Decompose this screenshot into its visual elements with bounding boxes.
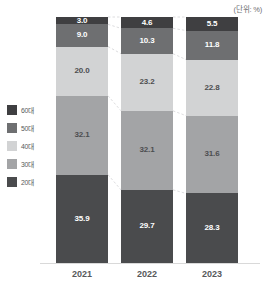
bar-segment-60대[interactable]: 5.5 bbox=[186, 17, 238, 31]
bar-segment-40대[interactable]: 20.0 bbox=[56, 47, 108, 96]
segment-value-label: 29.7 bbox=[140, 222, 155, 230]
bar-group-2021: 3.09.020.032.135.9 bbox=[56, 17, 108, 263]
bar-segment-50대[interactable]: 9.0 bbox=[56, 24, 108, 46]
x-axis-line bbox=[40, 263, 260, 264]
bar-segment-60대[interactable]: 3.0 bbox=[56, 17, 108, 24]
bar-segment-50대[interactable]: 11.8 bbox=[186, 31, 238, 60]
bar-segment-20대[interactable]: 35.9 bbox=[56, 175, 108, 263]
plot-area: 3.09.020.032.135.920214.610.323.232.129.… bbox=[0, 0, 268, 285]
stacked-bar-chart: (단위: %) 60대50대40대30대20대 3.09.020.032.135… bbox=[0, 0, 268, 285]
stacked-bar: 4.610.323.232.129.7 bbox=[121, 17, 173, 263]
segment-value-label: 10.3 bbox=[140, 37, 155, 45]
bar-segment-20대[interactable]: 28.3 bbox=[186, 193, 238, 263]
bar-segment-40대[interactable]: 23.2 bbox=[121, 54, 173, 111]
segment-value-label: 32.1 bbox=[75, 131, 90, 139]
segment-value-label: 4.6 bbox=[142, 19, 153, 27]
segment-value-label: 9.0 bbox=[77, 31, 88, 39]
x-axis-label-2022: 2022 bbox=[121, 269, 173, 279]
bar-segment-60대[interactable]: 4.6 bbox=[121, 17, 173, 28]
segment-value-label: 32.1 bbox=[140, 146, 155, 154]
segment-value-label: 28.3 bbox=[205, 224, 220, 232]
stacked-bar: 3.09.020.032.135.9 bbox=[56, 17, 108, 263]
bar-group-2023: 5.511.822.831.628.3 bbox=[186, 17, 238, 263]
stacked-bar: 5.511.822.831.628.3 bbox=[186, 17, 238, 263]
segment-value-label: 11.8 bbox=[205, 41, 219, 49]
segment-value-label: 22.8 bbox=[205, 84, 220, 92]
bar-group-2022: 4.610.323.232.129.7 bbox=[121, 17, 173, 263]
bar-segment-40대[interactable]: 22.8 bbox=[186, 60, 238, 116]
bar-segment-50대[interactable]: 10.3 bbox=[121, 28, 173, 53]
bar-segment-20대[interactable]: 29.7 bbox=[121, 190, 173, 263]
bar-segment-30대[interactable]: 32.1 bbox=[121, 111, 173, 190]
segment-value-label: 3.0 bbox=[77, 17, 88, 24]
segment-value-label: 23.2 bbox=[140, 78, 155, 86]
segment-value-label: 5.5 bbox=[207, 20, 218, 28]
x-axis-label-2023: 2023 bbox=[186, 269, 238, 279]
segment-value-label: 20.0 bbox=[75, 67, 90, 75]
bar-segment-30대[interactable]: 32.1 bbox=[56, 96, 108, 175]
segment-value-label: 35.9 bbox=[75, 215, 90, 223]
x-axis-label-2021: 2021 bbox=[56, 269, 108, 279]
segment-value-label: 31.6 bbox=[205, 150, 220, 158]
bar-segment-30대[interactable]: 31.6 bbox=[186, 116, 238, 194]
